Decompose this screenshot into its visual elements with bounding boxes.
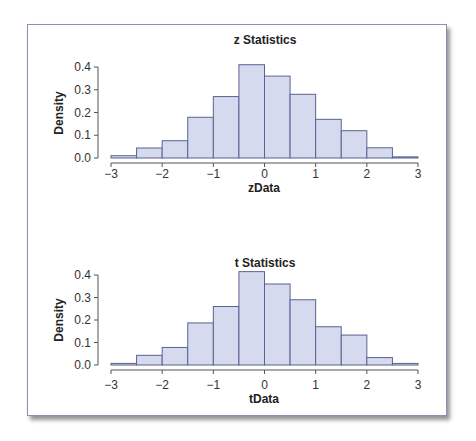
histogram-bar: [111, 363, 137, 365]
histogram-bar: [188, 323, 214, 365]
histogram-bar: [239, 65, 265, 158]
chart-title: z Statistics: [234, 33, 297, 47]
y-axis: 0.00.10.20.30.4: [74, 268, 98, 372]
y-tick-label: 0.4: [74, 60, 91, 74]
histogram-bar: [239, 272, 265, 365]
histogram-bar: [162, 141, 188, 158]
y-axis: 0.00.10.20.30.4: [74, 60, 98, 165]
histogram-bar: [392, 363, 418, 365]
x-tick-label: 1: [312, 167, 319, 181]
histogram-bar: [188, 117, 214, 158]
y-tick-label: 0.3: [74, 291, 91, 305]
histogram-bar: [341, 131, 367, 158]
histogram-bar: [213, 97, 239, 158]
x-tick-label: −2: [155, 378, 169, 392]
x-tick-label: −3: [104, 378, 118, 392]
x-axis-title: zData: [248, 181, 280, 195]
x-axis-title: tData: [249, 392, 279, 406]
x-axis: −3−2−10123: [104, 163, 422, 181]
y-tick-label: 0.1: [74, 128, 91, 142]
x-tick-label: 0: [261, 167, 268, 181]
x-tick-label: 3: [415, 167, 422, 181]
x-tick-label: 1: [312, 378, 319, 392]
y-tick-label: 0.3: [74, 83, 91, 97]
histogram-bar: [265, 76, 291, 158]
histogram-bar: [341, 335, 367, 365]
x-tick-label: −2: [155, 167, 169, 181]
histogram-bar: [316, 119, 342, 158]
chart-title: t Statistics: [235, 256, 296, 270]
y-tick-label: 0.0: [74, 151, 91, 165]
x-axis: −3−2−10123: [104, 370, 422, 392]
histogram-bars: [111, 65, 418, 158]
y-tick-label: 0.1: [74, 336, 91, 350]
z-statistics-chart: z Statistics 0.00.10.20.30.4 −3−2−10123 …: [52, 33, 422, 195]
y-tick-label: 0.2: [74, 313, 91, 327]
histogram-bars: [111, 272, 418, 365]
histogram-bar: [137, 355, 163, 365]
x-tick-label: −1: [206, 378, 220, 392]
x-tick-label: 3: [415, 378, 422, 392]
histogram-bar: [316, 327, 342, 365]
y-tick-label: 0.2: [74, 106, 91, 120]
x-tick-label: −1: [206, 167, 220, 181]
x-tick-label: −3: [104, 167, 118, 181]
histogram-bar: [290, 300, 316, 365]
x-tick-label: 0: [261, 378, 268, 392]
y-tick-label: 0.4: [74, 268, 91, 282]
histogram-bar: [367, 358, 393, 365]
x-tick-label: 2: [363, 378, 370, 392]
y-axis-title: Density: [52, 298, 66, 342]
histogram-bar: [290, 94, 316, 158]
histogram-bar: [392, 157, 418, 158]
histogram-bar: [367, 148, 393, 158]
histogram-bar: [162, 347, 188, 365]
x-tick-label: 2: [363, 167, 370, 181]
histogram-bar: [111, 156, 137, 158]
histogram-bar: [265, 284, 291, 365]
t-statistics-chart: t Statistics 0.00.10.20.30.4 −3−2−10123 …: [52, 256, 422, 406]
y-tick-label: 0.0: [74, 358, 91, 372]
y-axis-title: Density: [52, 91, 66, 135]
histogram-bar: [137, 148, 163, 158]
histogram-figure: z Statistics 0.00.10.20.30.4 −3−2−10123 …: [0, 0, 476, 441]
histogram-bar: [213, 307, 239, 366]
